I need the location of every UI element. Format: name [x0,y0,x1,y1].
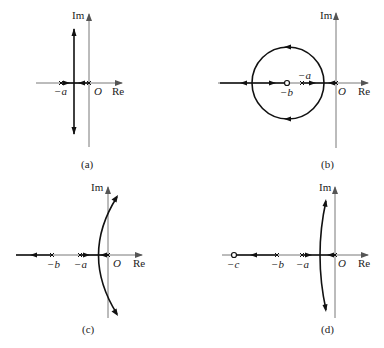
arrow-left-icon [78,81,85,86]
root-locus-figure: Im Re O −a (a) Im Re O −b [0,0,384,348]
re-label: Re [358,257,370,269]
caption: (a) [81,158,94,171]
arrow-left-icon [284,117,291,122]
point-label: −a [298,69,311,81]
point-label: −b [47,258,60,270]
point-label: −b [280,86,293,98]
caption: (d) [321,323,334,336]
panel-a: Im Re O −a (a) [36,9,124,171]
panel-c: Im Re O −b −a (c) [16,181,145,336]
im-label: Im [72,9,85,21]
origin-label: O [94,85,102,97]
arrow-up-icon [72,28,77,36]
arrow-down-icon [112,309,119,317]
caption: (b) [321,158,334,171]
arrow-right-icon [305,253,312,258]
arrow-up-icon [323,199,328,207]
zero-marker-icon [232,253,237,258]
im-label: Im [319,181,332,193]
arrow-right-icon [269,81,276,86]
re-label: Re [112,85,124,97]
origin-label: O [338,257,346,269]
origin-label: O [338,85,346,97]
arrow-left-icon [240,81,247,86]
arrow-left-icon [30,253,37,258]
arrow-down-icon [323,304,328,312]
arrow-down-icon [72,127,77,135]
point-label: −a [54,85,67,97]
arrow-left-icon [284,45,291,50]
panel-b: Im Re O −b −a (b) [218,9,370,171]
point-label: −a [296,258,309,270]
caption: (c) [82,323,95,336]
arrow-right-icon [83,253,90,258]
zero-marker-icon [285,81,290,86]
arrow-up-icon [112,195,119,203]
arrow-left-icon [250,253,257,258]
im-label: Im [91,181,104,193]
re-label: Re [133,257,145,269]
panel-d: Im Re O −c −b −a (d) [222,181,370,336]
point-label: −a [74,258,87,270]
point-label: −c [227,258,239,270]
re-label: Re [358,85,370,97]
arrow-right-icon [309,81,316,86]
im-label: Im [320,9,333,21]
point-label: −b [271,258,284,270]
origin-label: O [113,257,121,269]
